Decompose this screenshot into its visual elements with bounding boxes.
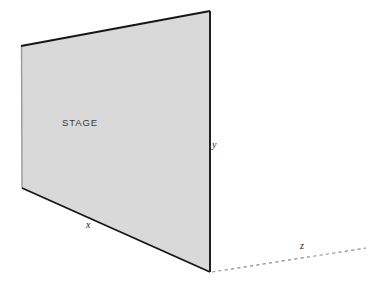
stage-plane-shape	[21, 11, 210, 272]
stage-diagram-canvas	[0, 0, 377, 287]
stage-edge-left	[22, 46, 23, 188]
axis-line-z	[212, 248, 366, 272]
stage-axes-diagram: STAGE x y z	[0, 0, 377, 287]
